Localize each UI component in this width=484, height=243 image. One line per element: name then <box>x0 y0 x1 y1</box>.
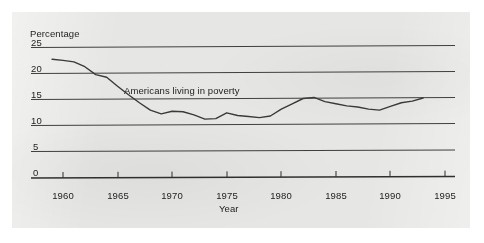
poverty-rate-line <box>52 59 423 119</box>
figure-page: Percentage Year 25 20 15 10 5 0 1960 196… <box>0 0 484 243</box>
gridline-15 <box>31 98 455 100</box>
gridline-5 <box>31 150 455 152</box>
x-axis-line <box>31 177 455 179</box>
gridline-25 <box>31 46 455 48</box>
gridlines-group <box>31 46 455 152</box>
gridline-10 <box>31 124 455 126</box>
plot-area <box>0 0 484 243</box>
